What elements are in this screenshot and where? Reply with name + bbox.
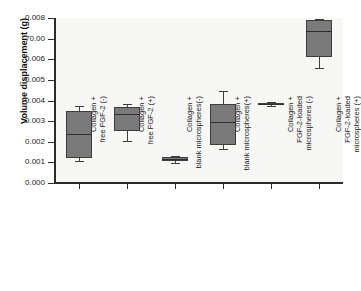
y-tick-label: 0.003	[25, 117, 45, 125]
y-tick-label: 0.001	[25, 158, 45, 166]
boxplot-upper-whisker	[223, 91, 224, 104]
y-axis-line	[54, 18, 56, 184]
x-category-label-line: free FGF-2 (+)	[146, 96, 155, 192]
boxplot-upper-cap	[75, 106, 84, 107]
x-category-label-line: free FGF-2 (-)	[98, 96, 107, 192]
boxplot-iqr-box	[210, 104, 236, 145]
boxplot-median-line	[66, 134, 92, 135]
boxplot-median-line	[114, 114, 140, 115]
x-category-label-line: blank microspheres(+)	[242, 96, 251, 192]
y-tick-mark	[48, 59, 54, 60]
boxplot-lower-whisker	[319, 57, 320, 69]
boxplot-median-line	[210, 122, 236, 123]
x-category-label: Collagen +FGF-2-loadedmicrospheres (+)	[334, 96, 361, 192]
boxplot-iqr-box	[306, 20, 332, 56]
y-tick-label: 70.00	[25, 35, 45, 43]
y-tick-mark	[48, 183, 54, 184]
x-category-label-line: microspheres (+)	[352, 96, 361, 192]
boxplot-iqr-box	[114, 107, 140, 132]
x-category-label-line: microspheres (-)	[304, 96, 313, 192]
x-category-label-line: Collagen +	[334, 96, 343, 192]
boxplot-upper-cap	[219, 91, 228, 92]
x-tick-mark	[271, 184, 272, 189]
boxplot-upper-cap	[315, 19, 324, 20]
y-tick-label: 0.002	[25, 138, 45, 146]
boxplot-median-line	[306, 31, 332, 32]
boxplot-lower-cap	[219, 149, 228, 150]
x-category-label: Collagen +blank microspheres(-)	[185, 96, 203, 192]
boxplot-lower-cap	[171, 163, 180, 164]
y-tick-label: 0.005	[25, 76, 45, 84]
x-tick-mark	[127, 184, 128, 189]
boxplot-median-line	[162, 159, 188, 160]
y-tick-mark	[48, 162, 54, 163]
boxplot-lower-cap	[315, 68, 324, 69]
y-tick-mark	[48, 121, 54, 122]
x-category-label-line: Collagen +	[286, 96, 295, 192]
x-tick-mark	[79, 184, 80, 189]
x-tick-mark	[175, 184, 176, 189]
y-tick-mark	[48, 39, 54, 40]
boxplot-lower-cap	[123, 141, 132, 142]
x-category-label-line: blank microspheres(-)	[194, 96, 203, 192]
x-tick-mark	[223, 184, 224, 189]
x-category-label-line: FGF-2-loaded	[343, 96, 352, 192]
y-tick-label: 0.000	[25, 179, 45, 187]
boxplot-lower-cap	[267, 106, 276, 107]
y-tick-mark	[48, 101, 54, 102]
boxplot-median-line	[258, 104, 284, 105]
y-tick-mark	[48, 18, 54, 19]
y-tick-label: 0.004	[25, 97, 45, 105]
y-tick-mark	[48, 80, 54, 81]
y-tick-label: 0.008	[25, 14, 45, 22]
x-tick-mark	[319, 184, 320, 189]
x-category-label: Collagen +FGF-2-loadedmicrospheres (-)	[286, 96, 313, 192]
boxplot-lower-cap	[75, 161, 84, 162]
x-category-label-line: FGF-2-loaded	[295, 96, 304, 192]
boxplot-lower-whisker	[127, 131, 128, 140]
x-category-label-line: Collagen +	[185, 96, 194, 192]
y-tick-label: 0.006	[25, 55, 45, 63]
y-tick-mark	[48, 142, 54, 143]
boxplot-upper-cap	[123, 104, 132, 105]
